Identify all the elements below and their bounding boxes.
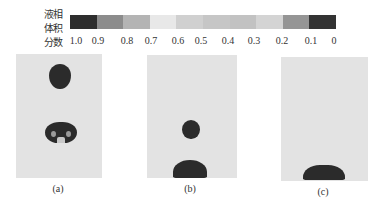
colorbar-title: 液相 体积 分数 bbox=[44, 8, 70, 50]
simulation-panel-c bbox=[281, 57, 368, 181]
gas-pocket-right bbox=[66, 131, 71, 137]
simulation-panel-b bbox=[147, 55, 237, 178]
caption-a: (a) bbox=[52, 183, 63, 194]
colorbar-tick: 0 bbox=[332, 35, 337, 46]
caption-c: (c) bbox=[317, 186, 328, 197]
droplet-top bbox=[182, 120, 200, 139]
colorbar-tick: 0.4 bbox=[222, 35, 235, 46]
gas-notch bbox=[57, 137, 65, 143]
colorbar-title-line: 体积 bbox=[44, 22, 70, 36]
colorbar-tick: 0.7 bbox=[145, 35, 158, 46]
colorbar-segment bbox=[230, 15, 257, 29]
colorbar-segment bbox=[203, 15, 230, 29]
colorbar-tick: 0.2 bbox=[276, 35, 289, 46]
colorbar-segment bbox=[309, 15, 336, 29]
colorbar-tick: 0.9 bbox=[92, 35, 105, 46]
droplet-spread-bottom bbox=[173, 160, 207, 178]
colorbar-tick: 1.0 bbox=[70, 35, 83, 46]
colorbar-segment bbox=[97, 15, 124, 29]
liquid-puddle bbox=[303, 165, 345, 180]
colorbar-tick: 0.3 bbox=[248, 35, 261, 46]
colorbar-tick: 0.8 bbox=[121, 35, 134, 46]
colorbar-title-line: 分数 bbox=[44, 36, 70, 50]
colorbar-segment bbox=[123, 15, 150, 29]
colorbar-title-line: 液相 bbox=[44, 8, 70, 22]
droplet-impact-bottom bbox=[45, 122, 77, 143]
colorbar-segment bbox=[176, 15, 203, 29]
simulation-panel-a bbox=[16, 54, 102, 178]
colorbar-tick: 0.1 bbox=[305, 35, 318, 46]
colorbar bbox=[70, 15, 336, 29]
colorbar-segment bbox=[283, 15, 310, 29]
colorbar-tick: 0.6 bbox=[172, 35, 185, 46]
colorbar-segment bbox=[70, 15, 97, 29]
droplet-top bbox=[49, 64, 71, 89]
colorbar-segment bbox=[256, 15, 283, 29]
gas-pocket-left bbox=[51, 131, 56, 137]
colorbar-tick: 0.5 bbox=[195, 35, 208, 46]
colorbar-segment bbox=[150, 15, 177, 29]
caption-b: (b) bbox=[184, 183, 196, 194]
